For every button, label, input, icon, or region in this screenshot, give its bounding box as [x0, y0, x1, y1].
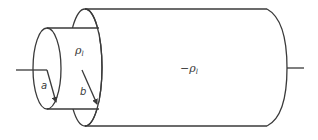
outer-radius-label: b [80, 86, 86, 97]
outer-cylinder-right-end [267, 9, 287, 126]
inner-cylinder [33, 9, 102, 126]
outer-charge-density-label: −ρl [180, 62, 198, 76]
coaxial-cylinder-diagram: a b ρl −ρl [0, 0, 318, 140]
outer-cylinder [68, 9, 287, 126]
inner-radius-label: a [41, 80, 47, 91]
